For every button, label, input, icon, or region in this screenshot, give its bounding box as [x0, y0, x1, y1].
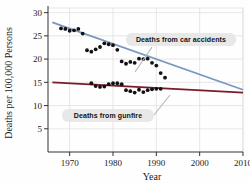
data-point: [94, 84, 98, 88]
data-point: [85, 48, 89, 52]
data-point: [133, 91, 137, 95]
scatter-chart: 19701980199020002010 51015202530 Deaths …: [0, 0, 250, 183]
data-point: [111, 81, 115, 85]
data-point: [146, 57, 150, 61]
data-point: [102, 41, 106, 45]
data-point: [124, 62, 128, 66]
data-point: [154, 64, 158, 68]
data-point: [107, 42, 111, 46]
trend-line-car-accidents: [52, 22, 243, 89]
annotation-label: Deaths from gunfire: [74, 112, 142, 120]
data-point: [154, 87, 158, 91]
data-point: [163, 76, 167, 80]
data-point: [128, 89, 132, 93]
data-point: [98, 45, 102, 49]
data-point: [141, 90, 145, 94]
annotation-label: Deaths from car accidents: [136, 36, 226, 43]
data-point: [89, 50, 93, 54]
data-point: [98, 85, 102, 89]
data-point: [146, 88, 150, 92]
data-point: [150, 61, 154, 65]
y-tick-label: 5: [38, 124, 43, 134]
x-tick-labels: 19701980199020002010: [61, 158, 250, 168]
data-point: [89, 81, 93, 85]
x-tick-label: 2010: [234, 158, 250, 168]
data-point: [81, 32, 85, 36]
y-tick-labels: 51015202530: [33, 8, 43, 134]
data-point: [94, 47, 98, 51]
y-tick-label: 30: [33, 8, 43, 18]
data-point: [137, 88, 141, 92]
chart-figure: 19701980199020002010 51015202530 Deaths …: [0, 0, 250, 183]
x-tick-label: 1990: [147, 158, 166, 168]
data-point: [115, 81, 119, 85]
data-point: [76, 27, 80, 31]
data-points-gunfire: [89, 81, 162, 94]
data-point: [128, 60, 132, 64]
y-tick-label: 15: [33, 78, 43, 88]
data-point: [72, 28, 76, 32]
y-tick-label: 20: [33, 54, 43, 64]
y-tick-marks: [44, 13, 48, 129]
data-point: [159, 71, 163, 75]
data-point: [137, 57, 141, 61]
data-point: [120, 60, 124, 64]
data-point: [120, 82, 124, 86]
x-tick-label: 1970: [61, 158, 80, 168]
data-point: [59, 27, 63, 31]
y-axis-title: Deaths per 100,000 Persons: [3, 27, 14, 139]
data-point: [133, 61, 137, 65]
x-tick-label: 2000: [191, 158, 210, 168]
data-point: [150, 87, 154, 91]
x-tick-marks: [70, 152, 243, 156]
data-point: [107, 82, 111, 86]
data-point: [102, 85, 106, 89]
data-point: [124, 88, 128, 92]
data-point: [68, 29, 72, 33]
x-tick-label: 1980: [104, 158, 123, 168]
data-point: [63, 27, 67, 31]
data-point: [115, 48, 119, 52]
data-point: [111, 43, 115, 47]
y-tick-label: 25: [33, 31, 43, 41]
data-point: [159, 87, 163, 91]
x-axis-title: Year: [143, 171, 162, 182]
y-tick-label: 10: [33, 101, 43, 111]
